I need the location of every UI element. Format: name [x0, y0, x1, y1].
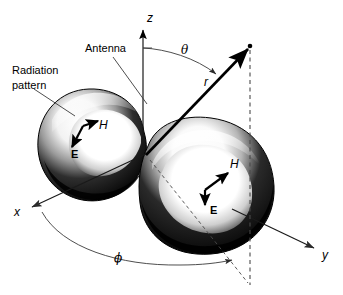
- electric-field-label-right: E: [210, 204, 217, 216]
- y-axis-label: y: [321, 248, 329, 262]
- text-callouts: Radiation pattern Antenna: [12, 42, 127, 91]
- antenna-label: Antenna: [85, 42, 127, 54]
- z-axis-label: z: [146, 11, 153, 25]
- theta-arc-line: [143, 48, 216, 74]
- magnetic-field-label-left: H: [99, 118, 108, 132]
- magnetic-field-label-right: H: [230, 157, 239, 171]
- x-axis-label: x: [13, 205, 21, 219]
- polar-angle-label: θ: [181, 43, 189, 57]
- azimuthal-angle-label: ϕ: [114, 251, 122, 265]
- antenna-radiation-pattern-figure: z x y r θ: [0, 0, 343, 295]
- radiation-pattern-lobes: [38, 89, 274, 254]
- radiation-lobe-right: [139, 117, 274, 254]
- radial-vector-endpoint: [248, 44, 253, 49]
- radiation-lobe-left: [38, 89, 147, 201]
- z-axis: z: [143, 11, 153, 150]
- electric-field-label-left: E: [71, 148, 78, 160]
- figure-canvas: z x y r θ: [0, 0, 343, 295]
- polar-angle-arc: θ: [143, 43, 216, 74]
- radiation-pattern-label-line1: Radiation: [12, 64, 58, 76]
- radiation-pattern-label-line2: pattern: [12, 79, 46, 91]
- radial-distance-label: r: [204, 75, 209, 89]
